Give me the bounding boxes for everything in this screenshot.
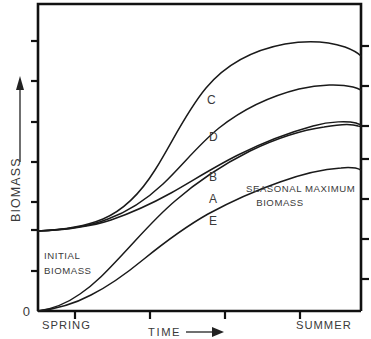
curve-label-c: C: [207, 93, 216, 107]
curve-b: [38, 122, 361, 231]
curve-label-a: A: [209, 192, 218, 206]
curve-label-d: D: [209, 130, 218, 144]
chart-svg: BIOMASS 0 SPRING SUMMER TIME C D B A E I…: [0, 0, 371, 339]
biomass-accumulation-figure: BIOMASS 0 SPRING SUMMER TIME C D B A E I…: [0, 0, 371, 339]
curve-c: [38, 42, 361, 231]
x-axis-start-label: SPRING: [42, 319, 91, 331]
x-axis-end-label: SUMMER: [296, 319, 352, 331]
x-axis-label: TIME: [148, 326, 181, 338]
initial-biomass-label-line1: INITIAL: [44, 250, 80, 261]
y-axis-arrow: [16, 76, 24, 162]
x-axis-arrow: [186, 327, 224, 337]
curve-a: [38, 125, 361, 311]
curve-label-e: E: [209, 214, 218, 228]
y-axis-origin-label: 0: [23, 304, 30, 319]
curve-label-b: B: [209, 170, 218, 184]
curve-d: [38, 85, 361, 231]
y-axis-label: BIOMASS: [9, 157, 23, 222]
seasonal-maximum-label-line1: SEASONAL MAXIMUM: [246, 183, 355, 194]
initial-biomass-label-line2: BIOMASS: [44, 265, 92, 276]
seasonal-maximum-label-line2: BIOMASS: [256, 197, 304, 208]
